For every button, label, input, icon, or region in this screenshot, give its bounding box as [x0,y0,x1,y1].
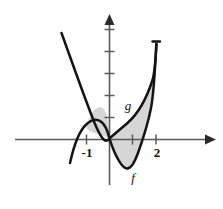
figure-container: -1 2 g f [0,0,223,209]
shaded-region-lower-lobe [110,48,157,169]
y-axis-arrow-icon [105,14,115,25]
x-tick-label-neg-one: -1 [82,145,93,160]
x-tick-label-two: 2 [154,145,161,160]
curve-label-f: f [131,170,137,185]
graph-canvas: -1 2 g f [0,0,223,209]
curve-label-g: g [125,98,132,113]
x-axis-arrow-icon [205,135,216,145]
